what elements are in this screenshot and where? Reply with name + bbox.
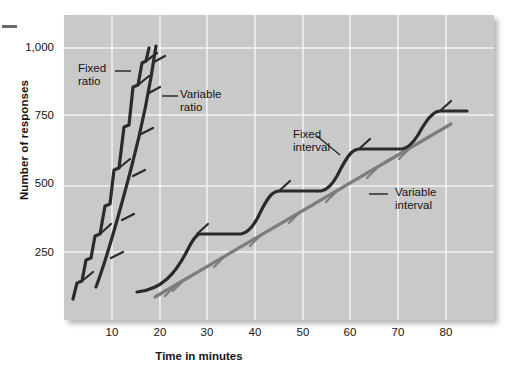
figure-container: Number of responses 1,000 750 500 250 [0, 0, 514, 373]
corner-rule-mark [2, 25, 17, 28]
x-tick-label-10: 10 [97, 326, 127, 338]
plot-area [64, 15, 494, 320]
y-tick-label-500: 500 [6, 177, 54, 189]
series-label-fixed-interval: Fixed interval [293, 128, 330, 154]
series-label-variable-interval: Variable interval [395, 186, 436, 212]
y-tick-label-1000: 1,000 [6, 41, 54, 53]
y-tick-label-750: 750 [6, 109, 54, 121]
x-tick-label-80: 80 [431, 326, 461, 338]
x-axis-title: Time in minutes [0, 350, 456, 362]
gridlines-horizontal [64, 48, 494, 252]
x-tick-label-60: 60 [335, 326, 365, 338]
y-tick-label-250: 250 [6, 246, 54, 258]
x-tick-label-20: 20 [145, 326, 175, 338]
x-tick-label-70: 70 [383, 326, 413, 338]
series-label-fixed-ratio: Fixed ratio [78, 62, 106, 88]
series-label-variable-ratio: Variable ratio [180, 88, 221, 114]
gridlines-vertical [112, 15, 446, 320]
x-tick-label-30: 30 [192, 326, 222, 338]
x-tick-label-50: 50 [288, 326, 318, 338]
series-variable-ratio [96, 46, 165, 287]
x-tick-label-40: 40 [240, 326, 270, 338]
y-axis-title: Number of responses [18, 40, 30, 240]
chart-svg [64, 15, 494, 320]
